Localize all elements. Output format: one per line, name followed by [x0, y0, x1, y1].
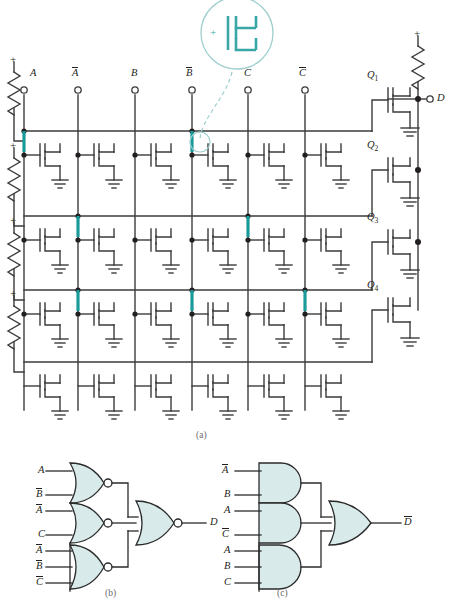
input-label-b: B — [131, 68, 137, 79]
and-gate-2 — [235, 503, 331, 543]
mosfet — [305, 303, 349, 347]
mosfet — [135, 144, 179, 188]
callout-plus: + — [210, 27, 216, 38]
mosfet — [248, 229, 292, 273]
output-mosfet-q3 — [372, 230, 419, 290]
output-transistors — [372, 88, 419, 362]
panel-b-nor-logic — [0, 445, 230, 605]
mosfet — [78, 375, 122, 419]
gate-b1-input-b-bar: B — [36, 489, 42, 500]
or-gate-output — [321, 501, 401, 545]
product-term-lines — [24, 131, 372, 362]
mosfet — [192, 303, 236, 347]
gate-c1-input-b: B — [224, 489, 230, 500]
gate-b2-input-a-bar: A — [36, 505, 42, 516]
figure-pla-implementation: + + + + + A A B B C C Q1 Q2 Q3 Q4 D + — [0, 0, 455, 609]
caption-a: (a) — [196, 430, 207, 440]
transistor-row-1 — [24, 144, 349, 188]
supply-plus-row2: + — [10, 140, 16, 151]
mosfet — [135, 375, 179, 419]
supply-plus-row4: + — [10, 288, 16, 299]
junction-dots — [21, 96, 421, 317]
mosfet — [135, 303, 179, 347]
mosfet — [192, 144, 236, 188]
gate-b3-input-c-bar: C — [36, 577, 43, 588]
gate-c3-input-c: C — [224, 577, 231, 588]
input-label-c-bar: C — [299, 68, 306, 79]
gate-c3-input-a: A — [224, 545, 230, 556]
transistor-label-q3: Q3 — [367, 212, 378, 225]
gate-c2-input-a: A — [224, 505, 230, 516]
output-mosfet-q4 — [372, 298, 419, 362]
mosfet — [248, 303, 292, 347]
transistor-row-2 — [24, 229, 349, 273]
mosfet — [135, 229, 179, 273]
gate-b2-input-c: C — [38, 529, 45, 540]
gate-c1-input-a-bar: A — [222, 465, 228, 476]
output-mosfet-q1 — [372, 88, 419, 136]
magnifier-callout — [190, 0, 273, 152]
mosfet — [78, 144, 122, 188]
mosfet — [305, 144, 349, 188]
transistor-row-3 — [24, 303, 349, 347]
programmed-links — [24, 131, 305, 311]
input-label-a-bar: A — [72, 68, 78, 79]
nor-gate-2 — [46, 503, 136, 543]
mosfet — [305, 375, 349, 419]
output-pullup-and-bus — [388, 36, 427, 310]
output-label-d: D — [437, 93, 445, 104]
mosfet — [24, 375, 68, 419]
input-label-b-bar: B — [186, 68, 192, 79]
caption-c: (c) — [277, 588, 288, 598]
mosfet — [248, 144, 292, 188]
gate-c2-input-c-bar: C — [222, 529, 229, 540]
mosfet — [24, 303, 68, 347]
supply-plus-row3: + — [10, 215, 16, 226]
gate-c3-input-b: B — [224, 561, 230, 572]
transistor-row-4 — [24, 375, 349, 419]
output-mosfet-q2 — [372, 158, 419, 216]
mosfet — [24, 229, 68, 273]
panel-c-output-d-bar: D — [404, 517, 412, 528]
supply-plus-row1: + — [10, 54, 16, 65]
mosfet — [192, 229, 236, 273]
caption-b: (b) — [105, 588, 116, 598]
gate-b1-input-a: A — [38, 465, 44, 476]
input-label-a: A — [30, 68, 36, 79]
mosfet — [24, 144, 68, 188]
input-column-lines — [24, 95, 305, 410]
mosfet — [192, 375, 236, 419]
mosfet — [248, 375, 292, 419]
input-label-c: C — [244, 68, 251, 79]
supply-plus-output: + — [414, 28, 420, 39]
mosfet — [78, 229, 122, 273]
input-terminals — [21, 87, 308, 93]
transistor-label-q1: Q1 — [367, 70, 378, 83]
mosfet — [305, 229, 349, 273]
mosfet — [78, 303, 122, 347]
transistor-label-q2: Q2 — [367, 140, 378, 153]
gate-b3-input-a-bar: A — [36, 545, 42, 556]
transistor-label-q4: Q4 — [367, 280, 378, 293]
nor-gate-output — [128, 501, 206, 545]
panel-a-transistor-array — [0, 0, 455, 445]
output-terminal-d — [427, 96, 433, 102]
gate-b3-input-b-bar: B — [36, 561, 42, 572]
